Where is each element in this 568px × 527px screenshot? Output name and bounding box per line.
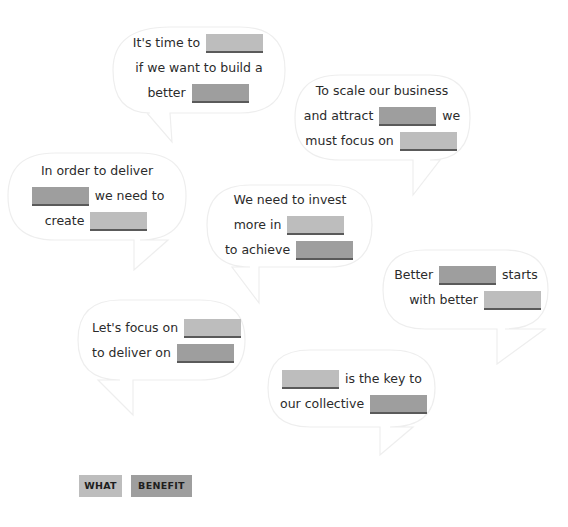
what-blank[interactable] — [90, 212, 147, 231]
text: must focus on — [305, 133, 393, 148]
bubble-5-text: Better starts with better — [388, 262, 544, 312]
text: if we want to build a — [118, 55, 280, 80]
text: we need to — [95, 188, 165, 203]
benefit-blank[interactable] — [177, 344, 234, 363]
benefit-blank[interactable] — [379, 107, 436, 126]
text: starts — [502, 267, 538, 282]
benefit-blank[interactable] — [370, 395, 427, 414]
text: In order to deliver — [12, 158, 182, 183]
text: To scale our business — [298, 78, 466, 103]
bubble-1-text: It's time to if we want to build a bette… — [118, 30, 280, 105]
bubble-3-text: In order to deliver we need to create — [12, 158, 182, 233]
what-blank[interactable] — [400, 132, 457, 151]
text: more in — [234, 217, 282, 232]
text: better — [147, 85, 185, 100]
text: It's time to — [133, 35, 200, 50]
benefit-blank[interactable] — [296, 241, 353, 260]
what-blank[interactable] — [184, 319, 241, 338]
bubble-4-text: We need to invest more in to achieve — [212, 187, 368, 262]
text: Let's focus on — [92, 320, 178, 335]
bubble-6-text: Let's focus on to deliver on — [92, 315, 242, 365]
bubble-2-text: To scale our business and attract we mus… — [298, 78, 466, 153]
text: is the key to — [345, 371, 422, 386]
text: create — [45, 213, 85, 228]
what-blank[interactable] — [287, 216, 344, 235]
benefit-blank[interactable] — [439, 266, 496, 285]
text: our collective — [280, 396, 364, 411]
what-blank[interactable] — [484, 291, 541, 310]
what-blank[interactable] — [206, 34, 263, 53]
legend-what: WHAT — [79, 475, 122, 497]
text: with better — [409, 292, 478, 307]
legend-benefit: BENEFIT — [131, 475, 192, 497]
text: We need to invest — [212, 187, 368, 212]
text: to achieve — [225, 242, 290, 257]
benefit-blank[interactable] — [32, 187, 89, 206]
benefit-blank[interactable] — [192, 84, 249, 103]
text: Better — [394, 267, 433, 282]
bubble-7-text: is the key to our collective — [280, 366, 430, 416]
text: to deliver on — [92, 345, 171, 360]
text: we — [442, 108, 460, 123]
what-blank[interactable] — [282, 370, 339, 389]
text: and attract — [304, 108, 374, 123]
